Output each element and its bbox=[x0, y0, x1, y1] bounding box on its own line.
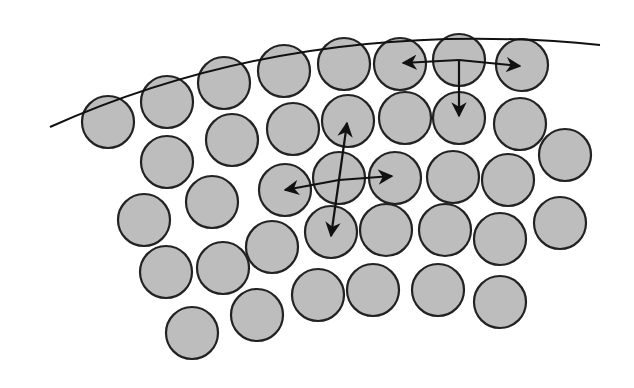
particle-circle bbox=[482, 154, 534, 206]
particle-circle bbox=[539, 129, 591, 181]
particle-circle bbox=[379, 92, 431, 144]
particle-circle bbox=[246, 221, 298, 273]
particle-circle bbox=[231, 289, 283, 341]
particle-packing-diagram bbox=[0, 0, 634, 388]
particle-circle bbox=[322, 95, 374, 147]
particle-circle bbox=[412, 264, 464, 316]
particle-circle bbox=[534, 197, 586, 249]
particle-circle bbox=[494, 98, 546, 150]
particle-circle bbox=[141, 136, 193, 188]
particle-circle bbox=[374, 38, 426, 90]
particle-circle bbox=[419, 204, 471, 256]
particle-circle bbox=[267, 103, 319, 155]
particle-circle bbox=[347, 264, 399, 316]
particle-circle bbox=[118, 194, 170, 246]
particle-circle bbox=[427, 151, 479, 203]
particle-circle bbox=[186, 176, 238, 228]
particle-circle bbox=[292, 269, 344, 321]
particle-circle bbox=[206, 114, 258, 166]
diagram-canvas bbox=[0, 0, 634, 388]
particle-circle bbox=[474, 276, 526, 328]
particle-circle bbox=[197, 242, 249, 294]
particle-circle bbox=[166, 307, 218, 359]
particle-circle bbox=[474, 213, 526, 265]
particle-circle bbox=[198, 57, 250, 109]
particle-circle bbox=[360, 204, 412, 256]
particle-circle bbox=[140, 246, 192, 298]
